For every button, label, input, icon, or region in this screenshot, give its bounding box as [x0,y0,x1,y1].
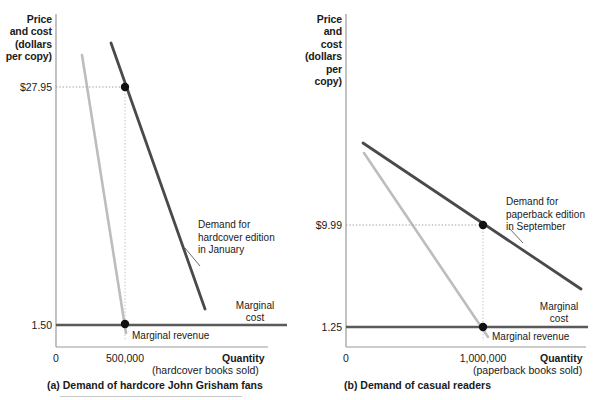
x-tick-quantity-a: 500,000 [85,352,165,364]
x-origin-label-a: 0 [48,352,64,364]
mr-mc-point-b [479,323,487,331]
y-axis-title-line-3: (dollars [300,50,342,62]
y-tick-price-b: $9.99 [300,219,342,231]
panel-b-caption: (b) Demand of casual readers [344,379,491,391]
x-origin-label-b: 0 [338,352,354,364]
marginal-cost-label-line-1: Marginal [528,301,590,313]
y-axis-title-line-1: Price [300,13,342,25]
marginal-cost-label-a: Marginal cost [224,300,286,325]
demand-curve-label-line-1: Demand for [198,219,275,232]
profit-max-point-b [479,221,487,229]
y-axis-title-line-4: per copy) [0,50,52,62]
mr-mc-point-a [121,320,129,328]
marginal-revenue-label-b: Marginal revenue [492,331,569,343]
demand-curve-label-b: Demand for paperback edition in Septembe… [506,196,585,234]
y-axis-title-line-3: (dollars [0,38,52,50]
footer-rule [60,396,242,397]
marginal-cost-label-line-1: Marginal [224,300,286,312]
panel-a: Price and cost (dollars per copy) $27.95… [0,0,300,400]
demand-curve-label-line-3: in September [506,221,585,234]
marginal-revenue-curve-b [364,153,488,337]
panel-b: Price and cost (dollars per copy) $9.99 … [300,0,600,400]
demand-curve-label-line-1: Demand for [506,196,585,209]
y-axis-title-line-2: and cost [300,25,342,50]
marginal-cost-label-line-2: cost [528,313,590,325]
demand-curve-label-line-3: in January [198,244,275,257]
demand-curve-label-line-2: paperback edition [506,209,585,222]
y-tick-marginal-cost-b: 1.25 [300,321,342,333]
y-tick-price-a: $27.95 [0,81,52,93]
marginal-revenue-curve-a [82,55,126,333]
y-axis-title-a: Price and cost (dollars per copy) [0,13,52,63]
x-axis-subtitle-b: (paperback books sold) [473,364,582,376]
demand-curve-label-a: Demand for hardcover edition in January [198,219,275,257]
profit-max-point-a [121,83,129,91]
demand-curve-label-line-2: hardcover edition [198,232,275,245]
y-axis-title-b: Price and cost (dollars per copy) [300,13,342,87]
marginal-cost-label-line-2: cost [224,312,286,324]
x-axis-subtitle-a: (hardcover books sold) [152,364,259,376]
panel-a-caption: (a) Demand of hardcore John Grisham fans [47,379,263,391]
figure-price-discrimination: Price and cost (dollars per copy) $27.95… [0,0,601,400]
marginal-revenue-label-a: Marginal revenue [132,330,209,342]
marginal-cost-label-b: Marginal cost [528,301,590,326]
x-axis-title-b: Quantity [540,352,583,364]
y-axis-title-line-4: per copy) [300,63,342,88]
x-tick-quantity-b: 1,000,000 [441,352,525,364]
y-axis-title-line-2: and cost [0,25,52,37]
y-axis-title-line-1: Price [0,13,52,25]
x-axis-title-a: Quantity [222,352,265,364]
y-tick-marginal-cost-a: 1.50 [0,319,52,331]
